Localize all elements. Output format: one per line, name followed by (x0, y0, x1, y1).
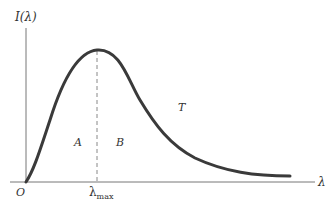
origin-label: O (16, 186, 25, 199)
region-a-label: A (73, 136, 82, 149)
y-axis-label: I(λ) (14, 10, 37, 24)
x-axis-label: λ (317, 175, 326, 189)
planck-curve-diagram: I(λ) λ O λmax A B T (0, 0, 333, 207)
intensity-curve (26, 50, 290, 182)
region-t-label: T (178, 101, 187, 114)
region-b-label: B (115, 136, 124, 149)
lambda-max-label: λmax (89, 185, 114, 201)
